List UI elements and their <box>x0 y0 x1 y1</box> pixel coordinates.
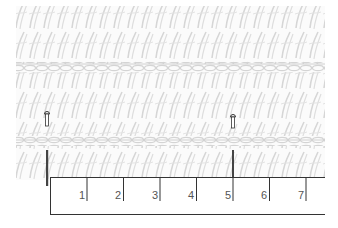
crochet-fabric <box>16 6 325 180</box>
crochet-gauge-figure: 1 2 3 4 5 6 7 <box>0 0 338 228</box>
ruler-label-3: 3 <box>152 189 158 201</box>
ruler-label-2: 2 <box>115 189 121 201</box>
ruler-label-7: 7 <box>298 189 304 201</box>
ruler-label-4: 4 <box>188 189 194 201</box>
ruler-label-1: 1 <box>79 189 85 201</box>
ruler-label-5: 5 <box>225 189 231 201</box>
swatch-illustration <box>0 0 338 228</box>
ruler-label-6: 6 <box>261 189 267 201</box>
